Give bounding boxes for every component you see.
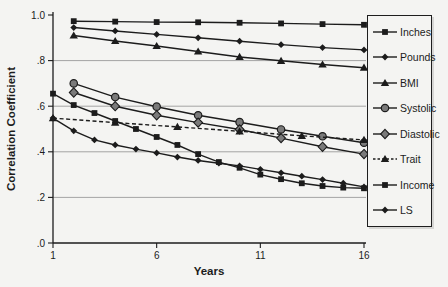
legend-marker-inches-icon bbox=[372, 26, 398, 38]
series-marker-pounds bbox=[236, 38, 243, 45]
series-marker-ls bbox=[298, 173, 305, 180]
series-marker-inches bbox=[154, 19, 160, 25]
y-tick-label: .2 bbox=[37, 192, 46, 203]
series-marker-income bbox=[278, 176, 284, 182]
legend-label-inches: Inches bbox=[400, 27, 431, 38]
legend-marker-diastolic-icon bbox=[372, 128, 398, 140]
series-marker-inches bbox=[320, 21, 326, 27]
series-marker-income bbox=[320, 183, 326, 189]
series-marker-systolic bbox=[112, 93, 119, 100]
series-marker-ls bbox=[174, 154, 181, 161]
series-marker-income bbox=[175, 142, 181, 148]
series-marker-ls bbox=[195, 157, 202, 164]
x-tick-label: 1 bbox=[50, 250, 56, 261]
x-tick-label: 11 bbox=[255, 250, 266, 261]
series-marker-inches bbox=[195, 19, 201, 25]
legend-item-bmi: BMI bbox=[372, 77, 431, 89]
series-marker-income bbox=[195, 151, 201, 157]
legend-item-trait: Trait bbox=[372, 153, 431, 165]
legend-marker-ls-icon bbox=[372, 204, 398, 216]
legend-label-systolic: Systolic bbox=[400, 103, 436, 114]
series-marker-income bbox=[71, 102, 77, 108]
series-marker-pounds bbox=[319, 44, 326, 51]
x-axis-title: Years bbox=[194, 265, 225, 277]
y-tick-label: .8 bbox=[37, 55, 46, 66]
series-marker-income bbox=[154, 134, 160, 140]
y-tick-label: .6 bbox=[37, 101, 46, 112]
legend-marker-trait-icon bbox=[372, 153, 398, 165]
series-marker-diastolic bbox=[194, 118, 203, 127]
series-marker-pounds bbox=[70, 24, 77, 31]
series-line-ls bbox=[53, 118, 364, 187]
series-marker-diastolic bbox=[152, 111, 161, 120]
series-marker-inches bbox=[112, 19, 118, 25]
legend-marker-income-icon bbox=[372, 179, 398, 191]
series-marker-ls bbox=[91, 137, 98, 144]
series-marker-pounds bbox=[278, 41, 285, 48]
legend-sample-marker bbox=[381, 105, 388, 112]
series-marker-diastolic bbox=[318, 142, 327, 151]
series-line-trait bbox=[53, 118, 364, 140]
series-marker-inches bbox=[278, 21, 284, 27]
legend-sample-marker bbox=[382, 54, 389, 61]
series-marker-ls bbox=[278, 169, 285, 176]
legend-label-bmi: BMI bbox=[400, 78, 419, 89]
legend-marker-systolic-icon bbox=[372, 102, 398, 114]
legend-label-pounds: Pounds bbox=[400, 52, 436, 63]
legend-label-trait: Trait bbox=[400, 154, 421, 165]
series-marker-diastolic bbox=[111, 102, 120, 111]
legend-sample-marker bbox=[381, 129, 390, 138]
y-tick-label: .4 bbox=[37, 146, 46, 157]
legend-item-ls: LS bbox=[372, 204, 431, 216]
series-marker-systolic bbox=[153, 103, 160, 110]
series-line-bmi bbox=[74, 36, 364, 68]
x-tick-label: 16 bbox=[358, 250, 370, 261]
legend-item-pounds: Pounds bbox=[372, 51, 431, 63]
series-marker-ls bbox=[70, 127, 77, 134]
series-marker-ls bbox=[319, 176, 326, 183]
legend-label-diastolic: Diastolic bbox=[400, 129, 440, 140]
series-marker-inches bbox=[71, 18, 77, 24]
legend-marker-bmi-icon bbox=[372, 77, 398, 89]
legend-item-diastolic: Diastolic bbox=[372, 128, 431, 140]
legend-sample-marker bbox=[382, 29, 388, 35]
x-tick-label: 6 bbox=[154, 250, 160, 261]
series-marker-systolic bbox=[70, 80, 77, 87]
y-tick-label: .0 bbox=[37, 238, 46, 249]
legend-item-income: Income bbox=[372, 179, 431, 191]
legend-sample-marker bbox=[382, 182, 388, 188]
legend-box: InchesPoundsBMISystolicDiastolicTraitInc… bbox=[367, 15, 432, 227]
legend-item-systolic: Systolic bbox=[372, 102, 431, 114]
series-marker-pounds bbox=[195, 34, 202, 41]
series-marker-income bbox=[92, 110, 98, 116]
legend-sample-marker bbox=[382, 207, 389, 214]
series-marker-income bbox=[299, 180, 305, 186]
y-axis-title: Correlation Coefficient bbox=[5, 67, 17, 191]
legend-marker-pounds-icon bbox=[372, 51, 398, 63]
series-marker-income bbox=[50, 91, 56, 97]
series-marker-pounds bbox=[112, 28, 119, 35]
series-marker-income bbox=[133, 126, 139, 132]
legend-label-income: Income bbox=[400, 180, 434, 191]
series-marker-income bbox=[112, 118, 118, 124]
legend-item-inches: Inches bbox=[372, 26, 431, 38]
series-marker-systolic bbox=[277, 126, 284, 133]
series-marker-diastolic bbox=[69, 88, 78, 97]
series-marker-pounds bbox=[153, 31, 160, 38]
stability-correlation-chart: 1.0.8.6.4.2.0161116 Correlation Coeffici… bbox=[0, 0, 448, 287]
series-marker-bmi bbox=[70, 31, 78, 38]
series-marker-inches bbox=[237, 20, 243, 26]
series-marker-ls bbox=[112, 142, 119, 149]
y-tick-label: 1.0 bbox=[31, 10, 45, 21]
series-marker-ls bbox=[153, 150, 160, 157]
legend-label-ls: LS bbox=[400, 205, 413, 216]
